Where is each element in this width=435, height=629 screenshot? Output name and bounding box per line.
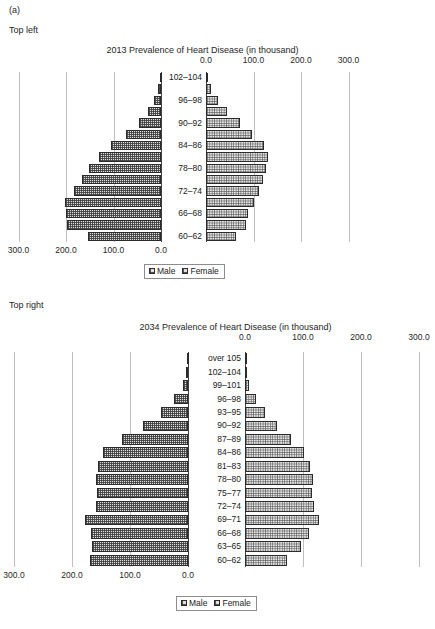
male-pattern-swatch-icon xyxy=(181,600,187,606)
bar-female-102-104 xyxy=(245,367,247,378)
category-label-102-104: 102–104 xyxy=(164,73,202,82)
bar-female-69-71 xyxy=(245,515,319,526)
male-xtick-100: 100.0 xyxy=(103,245,124,255)
bar-male-75-77 xyxy=(82,175,161,184)
category-label-81-83: 81–83 xyxy=(191,462,241,471)
category-label-78-80: 78–80 xyxy=(191,475,241,484)
bar-male-63-65 xyxy=(92,541,188,552)
category-label-66-68: 66–68 xyxy=(191,529,241,538)
bar-male-63-65 xyxy=(67,220,161,229)
plot-area-2013 xyxy=(0,72,435,242)
female-pattern-swatch-icon xyxy=(182,268,188,274)
category-label-69-71: 69–71 xyxy=(191,515,241,524)
bar-female-69-71 xyxy=(206,198,254,207)
bar-male-84-86 xyxy=(111,141,161,150)
category-label-72-74: 72–74 xyxy=(164,187,202,196)
legend-label-male: Male xyxy=(157,266,175,276)
category-label-63-65: 63–65 xyxy=(191,542,241,551)
bar-female-63-65 xyxy=(206,220,246,229)
bar-male-84-86 xyxy=(103,447,188,458)
female-xtick-300: 300.0 xyxy=(338,55,359,65)
bar-female-93-95 xyxy=(206,107,227,116)
bar-male-87-89 xyxy=(122,434,188,445)
female-xtick-300: 300.0 xyxy=(408,332,429,342)
bar-male-102-104 xyxy=(186,367,188,378)
bar-female-84-86 xyxy=(206,141,264,150)
bar-female-96-98 xyxy=(206,96,218,105)
chart-title-2013: 2013 Prevalence of Heart Disease (in tho… xyxy=(0,45,435,55)
bar-male-93-95 xyxy=(148,107,161,116)
bar-female-81-83 xyxy=(245,461,310,472)
bar-female-66-68 xyxy=(245,528,309,539)
bar-male-75-77 xyxy=(97,488,188,499)
female-gridline-200 xyxy=(361,352,362,567)
legend-2013: Male Female xyxy=(144,264,225,279)
legend-item-female: Female xyxy=(214,598,250,608)
bar-male-81-83 xyxy=(98,461,188,472)
male-axis-line xyxy=(188,352,189,567)
female-gridline-300 xyxy=(349,72,350,242)
bar-male-69-71 xyxy=(85,515,188,526)
female-pattern-swatch-icon xyxy=(214,600,220,606)
male-xtick-300: 300.0 xyxy=(3,570,24,580)
bar-female-81-83 xyxy=(206,152,268,161)
category-label-102-104: 102–104 xyxy=(191,368,241,377)
bar-male-72-74 xyxy=(74,186,161,195)
bar-female-90-92 xyxy=(245,421,277,432)
female-gridline-300 xyxy=(419,352,420,567)
bar-female-78-80 xyxy=(245,474,313,485)
panel-label-top-right: Top right xyxy=(9,300,44,310)
female-gridline-200 xyxy=(301,72,302,242)
bar-male-96-98 xyxy=(154,96,161,105)
bar-female-87-89 xyxy=(245,434,291,445)
male-xtick-200: 200.0 xyxy=(61,570,82,580)
bar-male-over-105 xyxy=(187,353,189,364)
category-label-84-86: 84–86 xyxy=(191,448,241,457)
male-xtick-100: 100.0 xyxy=(119,570,140,580)
bar-male-93-95 xyxy=(161,407,188,418)
male-xtick-0: 0.0 xyxy=(155,245,167,255)
female-xtick-0: 0.0 xyxy=(239,332,251,342)
legend-item-male: Male xyxy=(149,266,175,276)
female-xtick-0: 0.0 xyxy=(200,55,212,65)
bar-female-66-68 xyxy=(206,209,248,218)
male-pattern-swatch-icon xyxy=(149,268,155,274)
bar-female-87-89 xyxy=(206,130,252,139)
bar-male-81-83 xyxy=(99,152,161,161)
panel-label-top-left: Top left xyxy=(9,25,38,35)
bar-male-87-89 xyxy=(126,130,161,139)
bar-male-96-98 xyxy=(174,394,188,405)
female-xtick-100: 100.0 xyxy=(292,332,313,342)
chart-title-2034: 2034 Prevalence of Heart Disease (in tho… xyxy=(0,322,435,332)
legend-label-female: Female xyxy=(190,266,218,276)
male-gridline-300 xyxy=(14,352,15,567)
male-gridline-200 xyxy=(72,352,73,567)
bar-female-90-92 xyxy=(206,118,240,127)
bar-female-93-95 xyxy=(245,407,265,418)
figure-caption: (a) xyxy=(9,5,20,15)
legend-item-female: Female xyxy=(182,266,218,276)
female-xtick-200: 200.0 xyxy=(290,55,311,65)
category-label-60-62: 60–62 xyxy=(191,556,241,565)
category-label-96-98: 96–98 xyxy=(164,96,202,105)
category-label-87-89: 87–89 xyxy=(191,435,241,444)
figure-page: (a) Top left 2013 Prevalence of Heart Di… xyxy=(0,0,435,629)
category-label-84-86: 84–86 xyxy=(164,141,202,150)
female-xtick-200: 200.0 xyxy=(350,332,371,342)
legend-label-female: Female xyxy=(222,598,250,608)
legend-2034: Male Female xyxy=(176,596,257,611)
bar-female-99-101 xyxy=(206,84,211,93)
bar-female-72-74 xyxy=(206,186,259,195)
bar-male-90-92 xyxy=(143,421,188,432)
bar-male-60-62 xyxy=(90,555,188,566)
female-xtick-100: 100.0 xyxy=(243,55,264,65)
bar-male-102-104 xyxy=(160,73,162,82)
bar-female-75-77 xyxy=(206,175,263,184)
category-label-99-101: 99–101 xyxy=(191,381,241,390)
bar-male-78-80 xyxy=(96,474,188,485)
bar-male-90-92 xyxy=(139,118,161,127)
bar-female-over-105 xyxy=(245,353,247,364)
category-label-over-105: over 105 xyxy=(191,354,241,363)
male-xtick-0: 0.0 xyxy=(182,570,194,580)
category-label-90-92: 90–92 xyxy=(191,421,241,430)
